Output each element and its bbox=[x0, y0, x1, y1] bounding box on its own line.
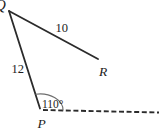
angle-p-label: 110° bbox=[42, 98, 64, 110]
side-qr-length-label: 10 bbox=[56, 21, 69, 35]
vertex-q-label: Q bbox=[0, 0, 6, 13]
side-qp-length-label: 12 bbox=[12, 62, 25, 76]
vertex-r-label: R bbox=[98, 64, 108, 79]
diagram-svg: Q 10 12 R P 110° bbox=[0, 0, 159, 131]
vertex-p-label: P bbox=[37, 116, 46, 131]
geometry-diagram: Q 10 12 R P 110° bbox=[0, 0, 159, 131]
dashed-ray bbox=[43, 110, 159, 113]
